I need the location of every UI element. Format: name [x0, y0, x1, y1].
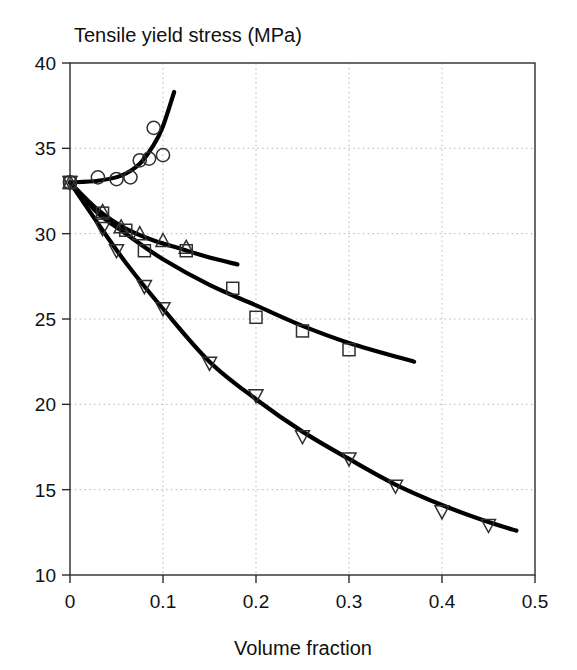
y-axis-tick-labels: 10152025303540 — [35, 53, 56, 586]
curve-circles-rising — [70, 92, 174, 182]
tensile-yield-stress-chart: 10152025303540 00.10.20.30.40.5 Tensile … — [0, 0, 577, 670]
x-tick-label: 0.4 — [429, 591, 456, 612]
plot-frame — [70, 63, 535, 575]
chart-container: 10152025303540 00.10.20.30.40.5 Tensile … — [0, 0, 577, 670]
curve-squares — [70, 182, 414, 361]
data-markers — [63, 121, 496, 532]
gridlines — [70, 63, 535, 575]
y-tick-label: 30 — [35, 224, 56, 245]
x-axis-title: Volume fraction — [234, 637, 372, 659]
x-tick-label: 0.2 — [243, 591, 269, 612]
y-tick-label: 35 — [35, 138, 56, 159]
chart-title: Tensile yield stress (MPa) — [74, 24, 302, 46]
x-tick-label: 0.5 — [522, 591, 548, 612]
x-tick-label: 0 — [65, 591, 76, 612]
marker-circle — [147, 121, 160, 134]
fitted-curves — [70, 92, 516, 531]
y-tick-label: 10 — [35, 565, 56, 586]
axes-frame — [70, 63, 535, 575]
y-tick-label: 20 — [35, 394, 56, 415]
x-axis-tick-labels: 00.10.20.30.40.5 — [65, 591, 549, 612]
y-tick-label: 15 — [35, 480, 56, 501]
y-tick-label: 25 — [35, 309, 56, 330]
x-tick-label: 0.1 — [150, 591, 176, 612]
x-tick-label: 0.3 — [336, 591, 362, 612]
y-tick-label: 40 — [35, 53, 56, 74]
